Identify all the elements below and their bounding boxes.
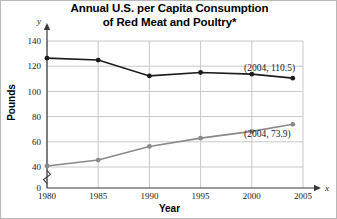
x-tick-label: 1985 [89,191,108,201]
data-point-marker [198,70,203,75]
data-point-annotation: (2004, 73.9) [244,129,291,140]
x-tick-label: 1990 [140,191,159,201]
data-point-marker [96,58,101,63]
x-tick-label: 2000 [243,191,262,201]
data-point-marker [198,136,203,141]
x-axis-arrow [314,185,321,191]
y-tick-label: 140 [28,36,42,46]
data-point-marker [290,76,295,81]
data-point-annotation: (2004, 110.5) [244,63,295,74]
x-tick-label: 1980 [38,191,57,201]
y-tick-label: 60 [32,137,42,147]
y-tick-label: 100 [28,87,42,97]
data-point-marker [45,56,50,61]
chart-figure: Annual U.S. per Capita Consumption of Re… [0,0,337,219]
data-point-marker [45,164,50,169]
x-tick-labels: 198019851990199520002005 [38,191,313,201]
y-tick-label: 120 [28,61,42,71]
x-axis-letter: x [324,183,329,193]
y-axis-letter: y [36,16,41,26]
axes [44,23,322,191]
plot-area: 0406080100120140 19801985199019952000200… [1,1,337,219]
x-tick-label: 1995 [192,191,211,201]
y-axis-arrow [44,23,50,30]
y-tick-label: 40 [32,162,42,172]
data-point-marker [147,144,152,149]
y-tick-label: 80 [32,112,42,122]
data-point-marker [290,122,295,127]
x-tick-label: 2005 [294,191,313,201]
axis-letters: yx [36,16,329,193]
y-tick-labels: 0406080100120140 [28,36,42,193]
data-point-marker [147,74,152,79]
data-point-marker [96,158,101,163]
